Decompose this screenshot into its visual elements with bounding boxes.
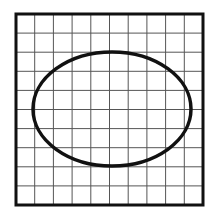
grid-ellipse-diagram — [0, 0, 214, 218]
grid-lines — [16, 14, 203, 205]
